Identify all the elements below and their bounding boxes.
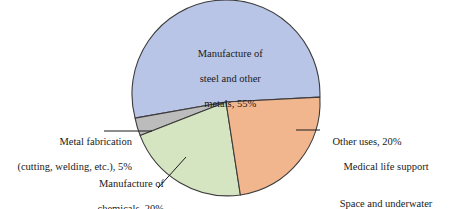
slice-label-manufacture-of-chemicals: Manufacture of chemicals, 20% (60, 166, 164, 209)
slice-sublabel-line: Space and underwater (322, 198, 450, 209)
slice-label-line: Other uses, 20% (333, 136, 402, 147)
slice-label-line: Metal fabrication (59, 136, 132, 147)
slice-label-steel-and-other-metals: Manufacture of steel and other metals, 5… (160, 36, 290, 123)
slice-label-other-uses: Other uses, 20% Medical life support Spa… (322, 124, 450, 209)
slice-label-line: chemicals, 20% (98, 203, 164, 209)
slice-label-line: Manufacture of (99, 178, 164, 189)
slice-label-line: metals, 55% (204, 98, 256, 109)
pie-chart: Manufacture of steel and other metals, 5… (0, 0, 453, 209)
slice-sublabel-line: Medical life support (322, 161, 450, 173)
slice-label-line: Manufacture of (198, 48, 263, 59)
slice-label-line: steel and other (200, 73, 261, 84)
